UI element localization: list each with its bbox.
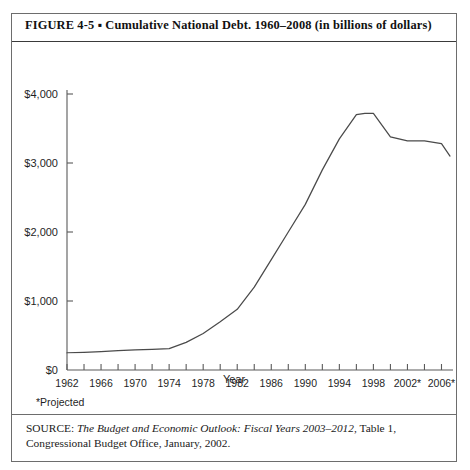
y-tick-label: $2,000 [24, 226, 58, 238]
figure-container: FIGURE 4-5 ▪ Cumulative National Debt. 1… [11, 13, 457, 462]
axis-label-group: $0$1,000$2,000$3,000$4,00019621966197019… [24, 88, 455, 389]
source-label: SOURCE: [26, 422, 74, 434]
data-series-group [67, 113, 450, 352]
x-tick-label: 1994 [328, 377, 352, 389]
data-line-cumulative-national-debt [67, 113, 450, 352]
x-tick-label: 1966 [89, 377, 113, 389]
figure-title-bar: FIGURE 4-5 ▪ Cumulative National Debt. 1… [12, 14, 456, 42]
y-tick-label: $1,000 [24, 295, 58, 307]
x-axis [67, 364, 453, 370]
y-axis [67, 90, 73, 370]
x-axis-title: Year [223, 373, 246, 385]
x-tick-label: 1970 [123, 377, 147, 389]
x-tick-label: 1986 [260, 377, 284, 389]
x-tick-label: 1974 [157, 377, 181, 389]
y-tick-label: $4,000 [24, 88, 58, 100]
x-tick-label: 1962 [55, 377, 79, 389]
y-tick-label: $3,000 [24, 157, 58, 169]
figure-title: FIGURE 4-5 ▪ Cumulative National Debt. 1… [25, 18, 432, 33]
national-debt-line-chart: $0$1,000$2,000$3,000$4,00019621966197019… [12, 43, 456, 393]
source-divider [12, 414, 456, 415]
x-tick-label: 1990 [294, 377, 318, 389]
chart-plot-area: $0$1,000$2,000$3,000$4,00019621966197019… [12, 43, 456, 393]
x-tick-label: 2002* [394, 377, 421, 389]
source-note: SOURCE: The Budget and Economic Outlook:… [26, 421, 446, 450]
x-tick-label: 2006* [428, 377, 455, 389]
y-tick-label: $0 [46, 364, 58, 376]
source-publication-title: The Budget and Economic Outlook: Fiscal … [77, 422, 354, 434]
x-tick-label: 1978 [191, 377, 215, 389]
projected-footnote: *Projected [36, 396, 84, 408]
x-tick-label: 1998 [362, 377, 386, 389]
